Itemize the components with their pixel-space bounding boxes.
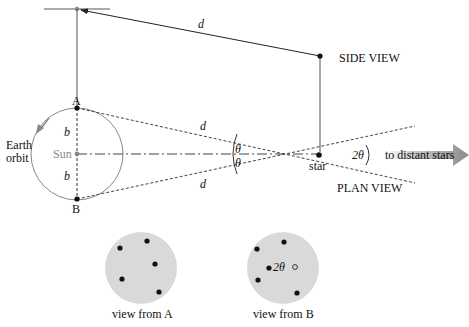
point-b-label: B (72, 202, 80, 216)
star-dot (119, 276, 124, 281)
star-dot (294, 290, 299, 295)
to-distant-stars-label: to distant stars (385, 148, 455, 162)
star-dot (117, 245, 122, 250)
earth-orbit-label-line2: orbit (6, 151, 29, 165)
d-upper-label: d (200, 119, 207, 133)
star-label: star (309, 159, 326, 173)
b-lower-label: b (64, 169, 70, 183)
star-dot (266, 265, 271, 270)
view-from-a-panel: view from A (105, 232, 177, 321)
two-theta-label: 2θ (352, 148, 364, 162)
star-dot (281, 239, 286, 244)
two-theta-disc-label: 2θ (273, 260, 285, 274)
view-from-b-panel: 2θ view from B (247, 232, 319, 321)
view-from-a-disc (105, 232, 177, 304)
sun-label: Sun (53, 147, 72, 161)
star-dot (144, 238, 149, 243)
sightline-from-a (77, 108, 415, 183)
side-view-label: SIDE VIEW (339, 51, 400, 65)
sun-dot (75, 152, 80, 157)
view-from-a-label: view from A (112, 307, 173, 321)
plan-view: A B b b Sun Earth orbit d d θ θ star 2θ … (6, 94, 469, 216)
point-a-label: A (72, 94, 81, 108)
theta-lower-label: θ (235, 156, 241, 170)
d-side-label: d (198, 17, 205, 31)
star-side-dot (317, 53, 322, 58)
star-dot (316, 152, 322, 158)
point-b-dot (74, 196, 79, 201)
earth-orbit-label-line1: Earth (6, 138, 32, 152)
side-view: d SIDE VIEW (44, 7, 400, 152)
d-lower-label: d (200, 177, 207, 191)
star-dot (254, 246, 259, 251)
view-from-b-label: view from B (253, 307, 314, 321)
theta-upper-label: θ (235, 142, 241, 156)
star-dot (152, 261, 157, 266)
plan-view-label: PLAN VIEW (337, 181, 403, 195)
two-theta-arc (366, 145, 369, 165)
star-dot (156, 289, 161, 294)
star-dot (255, 277, 260, 282)
parallax-diagram: d SIDE VIEW A B b b Sun Earth orbit d d (0, 0, 469, 327)
b-upper-label: b (64, 125, 70, 139)
